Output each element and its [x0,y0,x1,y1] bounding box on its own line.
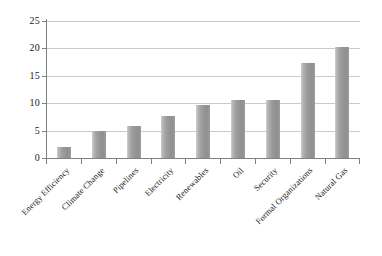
bar-chart: 25 20 15 10 5 0 Energy Efficiency Climat… [0,0,382,256]
x-axis-label-formal-organizations: Formal Organizations [254,166,314,226]
x-tick-6 [255,159,256,164]
x-tick-8 [325,159,326,164]
bar-renewables [196,105,210,158]
x-tick-2 [116,159,117,164]
x-axis-label-natural-gas: Natural Gas [313,166,349,202]
bar-formal-organizations [301,63,315,158]
bar-electricity [161,116,175,158]
bars-layer [47,21,360,158]
x-tick-9 [359,159,360,164]
y-axis-label-25: 25 [30,16,40,26]
y-axis-label-0: 0 [35,153,40,163]
y-axis-label-5: 5 [35,126,40,136]
x-tick-0 [46,159,47,164]
x-axis-line [46,158,360,159]
x-axis-label-pipelines: Pipelines [111,166,140,195]
x-tick-7 [290,159,291,164]
x-tick-1 [81,159,82,164]
bar-energy-efficiency [57,147,71,158]
x-tick-3 [151,159,152,164]
bar-oil [231,100,245,158]
x-axis-label-renewables: Renewables [174,166,210,202]
bar-security [266,100,280,158]
y-axis-label-20: 20 [30,43,40,53]
y-axis-label-10: 10 [30,98,40,108]
bar-climate-change [92,131,106,158]
x-axis-label-oil: Oil [231,166,245,180]
y-axis-labels: 25 20 15 10 5 0 [0,0,40,256]
x-axis-label-electricity: Electricity [143,166,175,198]
x-axis-label-security: Security [252,166,279,193]
x-tick-4 [185,159,186,164]
bar-natural-gas [335,47,349,158]
x-tick-5 [220,159,221,164]
y-axis-label-15: 15 [30,71,40,81]
x-axis-label-climate-change: Climate Change [60,166,106,212]
bar-pipelines [127,126,141,158]
